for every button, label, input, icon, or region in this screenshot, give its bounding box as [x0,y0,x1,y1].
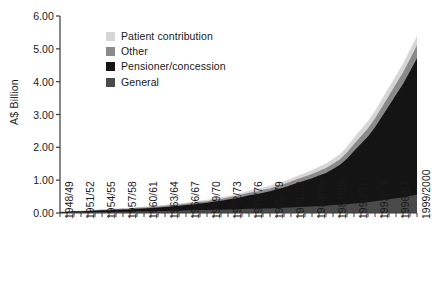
x-tick-label: 1981/82 [295,181,306,219]
x-tick-label: 1978/79 [274,181,285,219]
x-tick-label: 1954/55 [106,181,117,219]
legend-swatch-icon [106,62,115,71]
x-tick-label: 1999/2000 [421,169,432,219]
legend-item-other[interactable]: Other [106,44,286,59]
x-tick-label: 1966/67 [190,181,201,219]
x-tick-label: 1957/58 [127,181,138,219]
x-tick-label: 1951/52 [85,181,96,219]
x-tick-label: 1963/64 [169,181,180,219]
legend-item-label: Patient contribution [121,31,213,42]
legend-swatch-icon [106,78,115,87]
x-tick-label: 1975/76 [253,181,264,219]
legend-swatch-icon [106,32,115,41]
x-tick-label: 1996/97 [400,181,411,219]
x-tick-label: 1984/85 [316,181,327,219]
x-tick-label: 1948/49 [64,181,75,219]
x-tick-label: 1993/94 [379,181,390,219]
x-tick-label: 1969/70 [211,181,222,219]
legend-item-label: Other [121,46,148,57]
legend-item-label: General [121,77,159,88]
legend-item-patient-contribution[interactable]: Patient contribution [106,29,286,44]
x-tick-label: 1972/73 [232,181,243,219]
legend-swatch-icon [106,47,115,56]
x-tick-label: 1960/61 [148,181,159,219]
x-tick-label: 1990/91 [358,181,369,219]
x-tick-label: 1987/88 [337,181,348,219]
legend-item-general[interactable]: General [106,75,286,90]
chart-legend: Patient contribution Other Pensioner/con… [106,29,286,90]
legend-item-label: Pensioner/concession [121,61,226,72]
legend-item-pensioner-concession[interactable]: Pensioner/concession [106,59,286,74]
